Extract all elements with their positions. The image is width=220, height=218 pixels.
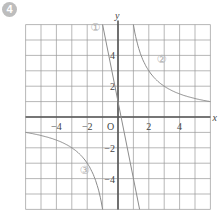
curve-label-3: ③ [80,164,90,177]
x-tick-label: −2 [82,121,93,132]
curve-3 [26,132,103,209]
y-tick-label: 4 [110,50,115,61]
x-tick-label: −4 [51,121,62,132]
origin-label: O [107,121,114,132]
x-tick-label: 4 [177,121,182,132]
y-axis-label: y [114,10,120,21]
x-axis-label: x [211,112,217,123]
curve-label-2: ② [157,53,167,66]
function-graph: xyO−4−22442−2−4①②③ [0,0,220,218]
y-tick-label: −4 [104,174,115,185]
x-tick-label: 2 [146,121,151,132]
curve-2 [133,25,210,102]
curve-label-1: ① [90,21,100,34]
y-tick-label: −2 [104,143,115,154]
